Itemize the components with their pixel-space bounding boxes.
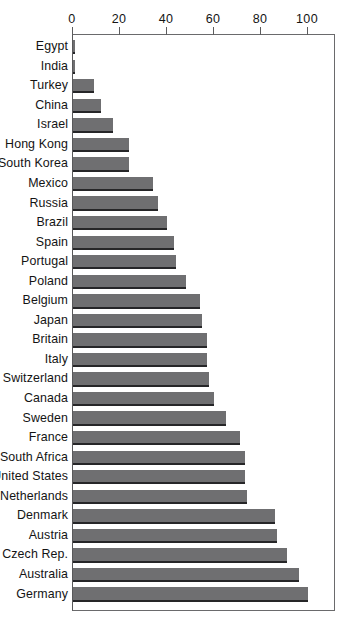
bar-row: Japan <box>0 311 347 331</box>
category-label: Turkey <box>30 79 68 92</box>
bar-row: South Africa <box>0 448 347 468</box>
category-label: South Africa <box>0 451 68 464</box>
category-label: Hong Kong <box>5 138 68 151</box>
bar <box>73 79 94 93</box>
category-label: Sweden <box>23 412 68 425</box>
bar <box>73 451 245 465</box>
bar <box>73 40 75 54</box>
bar <box>73 118 113 132</box>
bar <box>73 470 245 484</box>
x-axis-tick-label: 20 <box>112 12 127 26</box>
x-axis-tick-mark <box>166 27 167 35</box>
bar-row: South Korea <box>0 154 347 174</box>
category-label: Israel <box>37 119 68 132</box>
category-label: Japan <box>34 314 68 327</box>
category-label: Denmark <box>17 510 68 523</box>
category-label: United States <box>0 470 68 483</box>
bar-row: United States <box>0 467 347 487</box>
x-axis-tick-mark <box>119 27 120 35</box>
bar-row: Poland <box>0 272 347 292</box>
category-label: Britain <box>32 334 68 347</box>
bar-row: Russia <box>0 193 347 213</box>
bar <box>73 353 207 367</box>
category-label: Spain <box>36 236 68 249</box>
bar-row: Denmark <box>0 506 347 526</box>
category-label: South Korea <box>0 158 68 171</box>
bar <box>73 314 202 328</box>
bar <box>73 275 186 289</box>
category-label: Germany <box>16 588 68 601</box>
category-label: Czech Rep. <box>2 549 68 562</box>
bar-row: Turkey <box>0 76 347 96</box>
category-label: Canada <box>24 392 68 405</box>
x-axis-tick-mark <box>213 27 214 35</box>
bar <box>73 157 129 171</box>
category-label: India <box>41 60 68 73</box>
bar <box>73 529 277 543</box>
bar-row: Germany <box>0 584 347 604</box>
bar-row: Portugal <box>0 252 347 272</box>
bar-row: Austria <box>0 526 347 546</box>
category-label: Portugal <box>21 255 68 268</box>
category-label: Italy <box>45 353 68 366</box>
category-label: China <box>35 99 68 112</box>
bar <box>73 196 158 210</box>
bar <box>73 568 299 582</box>
category-label: Mexico <box>28 177 68 190</box>
category-label: Australia <box>19 568 68 581</box>
x-axis-tick-label: 0 <box>68 12 75 26</box>
bar-row: Britain <box>0 330 347 350</box>
bar <box>73 99 101 113</box>
bar <box>73 177 153 191</box>
bar-row: Spain <box>0 233 347 253</box>
bar <box>73 411 226 425</box>
bar-row: Australia <box>0 565 347 585</box>
category-label: Poland <box>29 275 68 288</box>
bar-row: Belgium <box>0 291 347 311</box>
bar <box>73 333 207 347</box>
bar <box>73 392 214 406</box>
bar-row: Israel <box>0 115 347 135</box>
bar-row: Czech Rep. <box>0 545 347 565</box>
bar-row: China <box>0 96 347 116</box>
x-axis-tick-label: 40 <box>159 12 174 26</box>
bar <box>73 294 200 308</box>
bar <box>73 60 75 74</box>
bar-chart: 020406080100 EgyptIndiaTurkeyChinaIsrael… <box>0 0 347 619</box>
category-label: Brazil <box>36 216 68 229</box>
x-axis-tick-mark <box>72 27 73 35</box>
bar-rows: EgyptIndiaTurkeyChinaIsraelHong KongSout… <box>0 34 347 611</box>
bar-row: Brazil <box>0 213 347 233</box>
bar <box>73 490 247 504</box>
bar <box>73 548 287 562</box>
category-label: Netherlands <box>0 490 68 503</box>
category-label: Egypt <box>36 40 68 53</box>
bar <box>73 138 129 152</box>
bar <box>73 587 308 601</box>
x-axis-tick-label: 100 <box>296 12 318 26</box>
bar-row: Italy <box>0 350 347 370</box>
category-label: Belgium <box>23 295 68 308</box>
bar-row: Netherlands <box>0 487 347 507</box>
bar-row: Mexico <box>0 174 347 194</box>
bar <box>73 236 174 250</box>
category-label: Switzerland <box>3 373 68 386</box>
x-axis-tick-labels: 020406080100 <box>0 12 347 30</box>
bar <box>73 255 176 269</box>
bar <box>73 509 275 523</box>
bar <box>73 372 209 386</box>
category-label: France <box>29 431 68 444</box>
bar-row: Canada <box>0 389 347 409</box>
bar-row: France <box>0 428 347 448</box>
bar-row: Switzerland <box>0 369 347 389</box>
bar-row: Egypt <box>0 37 347 57</box>
bar-row: Sweden <box>0 408 347 428</box>
x-axis-tick-mark <box>260 27 261 35</box>
category-label: Russia <box>30 197 68 210</box>
x-axis-tick-label: 80 <box>253 12 268 26</box>
bar <box>73 216 167 230</box>
bar-row: India <box>0 57 347 77</box>
x-axis-tick-label: 60 <box>206 12 221 26</box>
category-label: Austria <box>29 529 68 542</box>
bar-row: Hong Kong <box>0 135 347 155</box>
